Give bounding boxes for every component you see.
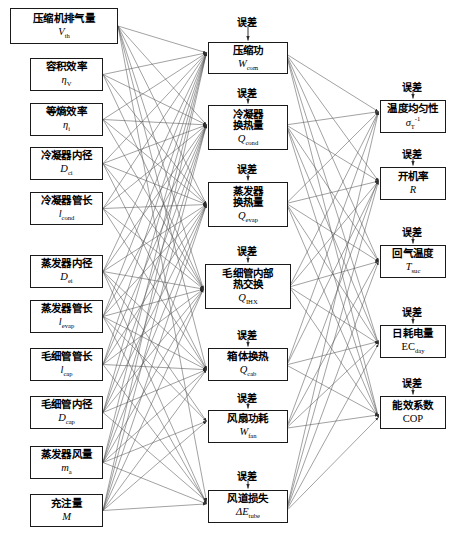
edge bbox=[103, 209, 204, 290]
edge bbox=[288, 181, 379, 363]
edge bbox=[103, 125, 207, 209]
edge bbox=[288, 342, 379, 365]
node-R: 开机率R bbox=[380, 167, 446, 200]
edge bbox=[103, 125, 207, 463]
error-label-Wcom: 误差 bbox=[237, 14, 258, 29]
edge bbox=[288, 344, 379, 508]
edge bbox=[288, 415, 379, 428]
node-QIHX: 毛细管内部热交换QIHX bbox=[205, 264, 291, 309]
edge bbox=[103, 53, 207, 209]
node-Wcom: 压缩功Wcom bbox=[208, 42, 288, 74]
edge bbox=[103, 365, 207, 370]
edge bbox=[288, 112, 379, 362]
edge bbox=[103, 421, 207, 510]
node-symbol: ηi bbox=[63, 119, 70, 132]
node-symbol: Qcond bbox=[238, 133, 258, 146]
edge bbox=[118, 26, 207, 125]
edge bbox=[103, 53, 207, 75]
edge bbox=[103, 164, 204, 290]
node-Dci: 冷凝器内径Dci bbox=[30, 147, 103, 180]
node-etai: 等熵效率ηi bbox=[30, 103, 103, 136]
node-label-cn: 等熵效率 bbox=[46, 106, 87, 118]
node-M: 充注量M bbox=[30, 494, 103, 527]
node-symbol: Dei bbox=[60, 271, 72, 284]
edge bbox=[103, 164, 207, 370]
edge bbox=[288, 130, 379, 417]
edge bbox=[103, 421, 207, 462]
node-levap: 蒸发器管长levap bbox=[30, 300, 103, 333]
edge bbox=[103, 125, 207, 511]
node-label-cn: 能效系数 bbox=[392, 400, 433, 412]
edge bbox=[103, 53, 207, 463]
node-Dcap: 毛细管内径Dcap bbox=[30, 396, 103, 429]
edge bbox=[118, 26, 207, 370]
edge bbox=[288, 58, 379, 262]
edge bbox=[103, 317, 207, 370]
node-Tsuc: 回气温度Tsuc bbox=[380, 245, 446, 278]
node-Vth: 压缩机排气量Vth bbox=[10, 8, 118, 44]
node-label-cn: 回气温度 bbox=[392, 248, 433, 260]
node-Qcab: 箱体换热Qcab bbox=[208, 348, 288, 381]
node-symbol: R bbox=[410, 184, 416, 196]
edge bbox=[103, 53, 207, 272]
node-etaV: 容积效率ηV bbox=[30, 58, 103, 91]
edge bbox=[103, 289, 204, 364]
edge bbox=[288, 417, 379, 509]
edge bbox=[103, 125, 207, 317]
edge bbox=[103, 272, 204, 290]
node-label-cn: 箱体换热 bbox=[227, 351, 268, 363]
edge bbox=[288, 126, 379, 181]
node-COP: 能效系数COP bbox=[380, 396, 446, 429]
edge bbox=[103, 209, 207, 370]
edge bbox=[103, 205, 207, 317]
node-label-cn2: 热交换 bbox=[233, 279, 264, 291]
edge bbox=[288, 112, 379, 125]
error-label-sigmaT: 误差 bbox=[402, 79, 423, 94]
edge bbox=[291, 262, 379, 287]
edge bbox=[288, 129, 379, 344]
edge bbox=[288, 112, 379, 202]
edge bbox=[103, 53, 207, 511]
error-label-QIHX: 误差 bbox=[237, 243, 258, 258]
edge bbox=[103, 370, 207, 413]
edge bbox=[103, 289, 204, 412]
node-label-cn: 毛细管内径 bbox=[41, 399, 93, 411]
edge bbox=[288, 181, 379, 505]
edge bbox=[288, 55, 379, 112]
edge bbox=[288, 259, 379, 425]
node-symbol: Dcap bbox=[58, 412, 75, 425]
node-label-cn: 蒸发器风量 bbox=[41, 449, 93, 461]
node-symbol: QIHX bbox=[238, 292, 257, 305]
node-Wfan: 风扇功耗Wfan bbox=[208, 410, 288, 443]
edge bbox=[288, 207, 379, 417]
edge bbox=[288, 206, 379, 344]
node-label-cn: 充注量 bbox=[51, 498, 82, 510]
node-label-cn: 容积效率 bbox=[46, 61, 87, 73]
edge bbox=[103, 205, 207, 463]
error-label-R: 误差 bbox=[402, 146, 423, 161]
edge bbox=[288, 57, 379, 182]
edge bbox=[291, 181, 379, 285]
edge bbox=[288, 179, 379, 424]
node-symbol: Vth bbox=[58, 26, 70, 39]
edge bbox=[103, 205, 207, 511]
error-label-Wfan: 误差 bbox=[237, 390, 258, 405]
edge bbox=[103, 272, 207, 422]
edge bbox=[103, 75, 207, 205]
edge bbox=[103, 125, 207, 164]
edge bbox=[103, 75, 204, 290]
node-symbol: M bbox=[62, 511, 71, 523]
node-ma: 蒸发器风量ma bbox=[30, 446, 103, 479]
node-symbol: COP bbox=[403, 413, 423, 425]
edge bbox=[103, 53, 207, 164]
edge bbox=[103, 365, 207, 502]
edge bbox=[103, 205, 207, 413]
edge bbox=[103, 205, 207, 365]
edge bbox=[103, 53, 207, 317]
edge bbox=[103, 120, 207, 205]
error-label-Qevap: 误差 bbox=[237, 161, 258, 176]
node-ECday: 日耗电量ECday bbox=[380, 325, 446, 358]
node-lcond: 冷凝器管长lcond bbox=[30, 192, 103, 225]
node-sigmaT: 温度均匀性σT-1 bbox=[380, 100, 446, 133]
error-label-Tsuc: 误差 bbox=[402, 224, 423, 239]
